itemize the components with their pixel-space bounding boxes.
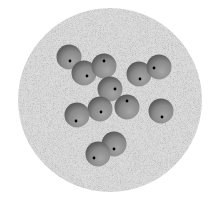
sphere-body <box>88 97 113 122</box>
sphere-center-dot <box>93 157 96 160</box>
sphere-center-dot <box>139 78 142 81</box>
sphere-center-dot <box>114 88 117 91</box>
sphere-center-dot <box>103 60 106 63</box>
sphere <box>92 54 117 79</box>
sphere-center-dot <box>113 148 116 151</box>
sphere-body <box>149 99 174 124</box>
sphere-center-dot <box>75 120 78 123</box>
sphere <box>88 97 113 122</box>
sphere-center-dot <box>86 75 89 78</box>
sphere-body <box>147 55 172 80</box>
sphere-center-dot <box>69 60 72 63</box>
sphere-center-dot <box>153 67 156 70</box>
sphere-body <box>115 95 140 120</box>
sphere <box>115 95 140 120</box>
sphere <box>149 99 174 124</box>
sphere <box>147 55 172 80</box>
sphere-scene <box>0 0 216 202</box>
sphere-center-dot <box>126 100 129 103</box>
sphere-body <box>65 103 90 128</box>
sphere-center-dot <box>161 116 164 119</box>
sphere-body <box>92 54 117 79</box>
sphere <box>86 142 111 167</box>
sphere-body <box>86 142 111 167</box>
sphere <box>65 103 90 128</box>
sphere-center-dot <box>100 111 103 114</box>
